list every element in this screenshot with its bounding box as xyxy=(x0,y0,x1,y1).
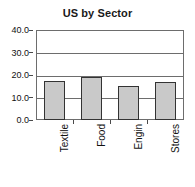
y-tick-mark xyxy=(29,97,33,98)
y-tick-mark xyxy=(29,120,33,121)
y-tick-label: 10.0 xyxy=(11,93,29,102)
x-tick-label: Stores xyxy=(171,124,181,153)
bar xyxy=(44,81,65,120)
y-tick-mark xyxy=(29,75,33,76)
x-axis: TextileFoodEnginStores xyxy=(36,124,184,182)
x-tick-label: Textile xyxy=(60,124,70,152)
y-tick-mark xyxy=(29,52,33,53)
y-tick-mark xyxy=(29,30,33,31)
y-axis: 0.010.020.030.040.0 xyxy=(0,30,33,120)
y-tick-label: 40.0 xyxy=(11,26,29,35)
chart-title: US by Sector xyxy=(0,7,195,19)
y-tick-label: 30.0 xyxy=(11,48,29,57)
bar xyxy=(155,82,176,120)
x-tick-label: Food xyxy=(97,124,107,147)
bar-chart: US by Sector 0.010.020.030.040.0 Textile… xyxy=(0,0,195,187)
bar xyxy=(81,77,102,120)
y-tick-label: 0.0 xyxy=(16,116,29,125)
x-tick-label: Engin xyxy=(134,124,144,150)
bars-layer xyxy=(36,30,184,120)
bar xyxy=(118,86,139,120)
y-tick-label: 20.0 xyxy=(11,71,29,80)
